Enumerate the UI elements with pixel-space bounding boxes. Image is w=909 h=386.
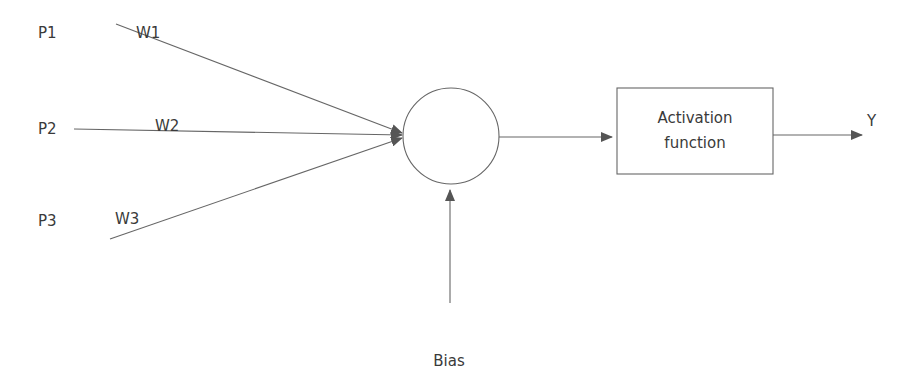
weight-label-w2: W2 (155, 117, 179, 135)
weight-label-w1: W1 (136, 24, 160, 42)
input-label-p2: P2 (38, 120, 57, 138)
activation-label-line1: Activation (657, 109, 732, 127)
perceptron-diagram: P1 P2 P3 W1 W2 W3 Activation function Y … (0, 0, 909, 386)
edge-p3 (110, 138, 402, 239)
input-label-p1: P1 (38, 24, 57, 42)
weight-label-w3: W3 (115, 210, 139, 228)
edge-p2 (74, 129, 402, 135)
activation-function-box (617, 88, 773, 174)
input-label-p3: P3 (38, 212, 57, 230)
activation-label-line2: function (664, 134, 725, 152)
bias-label: Bias (433, 352, 465, 370)
output-label-y: Y (866, 112, 877, 130)
summation-node (403, 88, 499, 184)
